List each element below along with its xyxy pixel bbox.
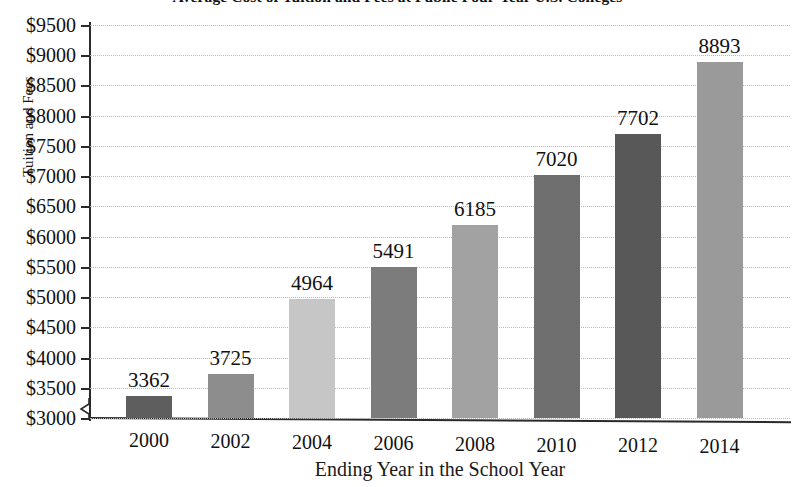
y-axis-tick: [81, 146, 90, 148]
bar-value-label: 4964: [272, 273, 352, 294]
gridline: [90, 327, 790, 328]
gridline: [90, 25, 790, 26]
x-axis-tick-label: 2010: [512, 435, 602, 455]
x-axis-tick-label: 2012: [593, 435, 683, 455]
y-axis-tick-label: $9000: [2, 45, 76, 65]
y-axis-tick-label: $9500: [2, 15, 76, 35]
bar-value-label: 8893: [680, 36, 760, 57]
x-axis-tick-label: 2004: [267, 432, 357, 452]
y-axis-tick: [81, 237, 90, 239]
y-axis-tick: [81, 25, 90, 27]
y-axis-tick-label: $4000: [2, 348, 76, 368]
x-axis-tick-label: 2008: [430, 434, 520, 454]
bar: [697, 62, 743, 418]
y-axis-tick-label: $3500: [2, 378, 76, 398]
x-axis-tick-label: 2006: [349, 433, 439, 453]
x-axis-tick-label: 2014: [675, 436, 765, 456]
chart-title: Average Cost of Tuition and Fees at Publ…: [0, 0, 795, 6]
gridline: [90, 85, 790, 86]
y-axis-tick: [81, 85, 90, 87]
bar-value-label: 7020: [517, 149, 597, 170]
x-axis-tick-label: 2000: [104, 430, 194, 450]
gridline: [90, 176, 790, 177]
y-axis-tick-label: $7000: [2, 166, 76, 186]
bar-value-label: 3725: [191, 348, 271, 369]
gridline: [90, 237, 790, 238]
y-axis-tick-label: $6000: [2, 227, 76, 247]
y-axis-tick: [81, 55, 90, 57]
y-axis-tick: [81, 297, 90, 299]
y-axis-tick: [81, 176, 90, 178]
gridline: [90, 267, 790, 268]
bar-value-label: 6185: [435, 199, 515, 220]
y-axis-tick: [81, 327, 90, 329]
y-axis-tick-label: $5500: [2, 257, 76, 277]
bar-chart: Average Cost of Tuition and Fees at Publ…: [0, 0, 795, 487]
y-axis-tick: [81, 388, 90, 390]
plot-area: 33623725496454916185702077028893: [90, 25, 790, 418]
bar: [126, 396, 172, 418]
y-axis-tick: [81, 418, 90, 420]
bar: [289, 299, 335, 418]
bar: [534, 175, 580, 418]
gridline: [90, 297, 790, 298]
gridline: [90, 418, 790, 419]
gridline: [90, 146, 790, 147]
bar-value-label: 7702: [598, 108, 678, 129]
gridline: [90, 388, 790, 389]
bar: [452, 225, 498, 418]
gridline: [90, 116, 790, 117]
y-axis-tick-label: $3000: [2, 408, 76, 428]
x-axis-tick-label: 2002: [186, 431, 276, 451]
y-axis-tick: [81, 358, 90, 360]
bar: [208, 374, 254, 418]
y-axis-tick-label: $4500: [2, 317, 76, 337]
y-axis-tick-label: $6500: [2, 196, 76, 216]
y-axis-tick-label: $5000: [2, 287, 76, 307]
y-axis-tick: [81, 116, 90, 118]
bar-value-label: 5491: [354, 241, 434, 262]
y-axis-tick: [81, 206, 90, 208]
y-axis-tick-label: $7500: [2, 136, 76, 156]
y-axis-tick: [81, 267, 90, 269]
y-axis-tick-label: $8000: [2, 106, 76, 126]
x-axis-title: Ending Year in the School Year: [90, 458, 790, 481]
y-axis-tick-label: $8500: [2, 75, 76, 95]
bar: [615, 134, 661, 418]
bar-value-label: 3362: [109, 370, 189, 391]
bar: [371, 267, 417, 418]
